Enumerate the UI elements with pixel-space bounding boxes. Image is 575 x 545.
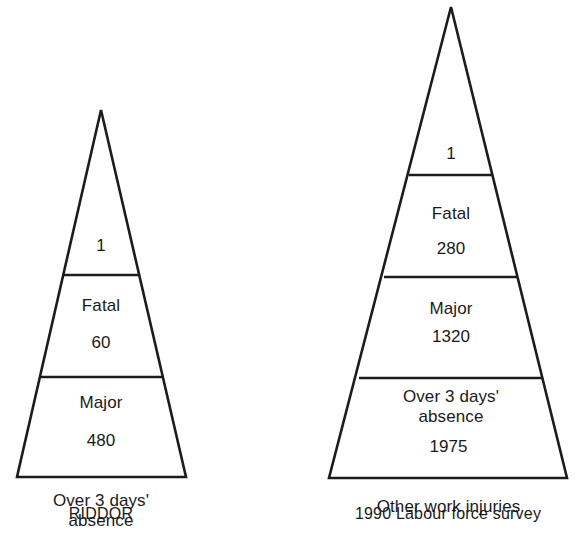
- pyramid-labour-force-survey-caption: 1990 Labour force survey: [328, 505, 568, 523]
- band-count: 1975: [326, 437, 571, 457]
- band-count: 480: [11, 431, 191, 451]
- pyramid-riddor-caption: RIDDOR: [21, 505, 181, 523]
- accident-triangles-figure: 1 Fatal 60 Major 480 Over 3 days' absenc…: [0, 0, 575, 545]
- band-count: 1: [386, 144, 516, 164]
- band-count: 1: [36, 236, 166, 256]
- band-count: 280: [376, 239, 526, 259]
- band-count: 60: [26, 333, 176, 353]
- band-count: 1320: [346, 327, 556, 347]
